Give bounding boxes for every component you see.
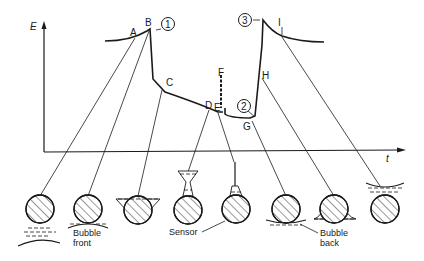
leader-lines bbox=[40, 31, 380, 196]
caption-bubble-back-1: Bubble bbox=[320, 228, 348, 238]
sensor-state-5 bbox=[222, 162, 250, 223]
stage-marker-1-text: 1 bbox=[165, 19, 171, 30]
bubble-back-pointer bbox=[300, 224, 318, 233]
stage-marker-2-text: 2 bbox=[241, 101, 247, 112]
caption-bubble-back-2: back bbox=[320, 238, 340, 248]
caption-sensor: Sensor bbox=[169, 227, 198, 237]
stage-marker-3-text: 3 bbox=[242, 15, 248, 26]
sensor-state-7 bbox=[314, 195, 356, 223]
axes: E t bbox=[30, 21, 406, 164]
bubble-sensor-signal-diagram: E t A B C D E F G H I 1 2 3 bbox=[0, 0, 424, 261]
point-label-g: G bbox=[243, 121, 251, 132]
point-label-e: E bbox=[214, 102, 221, 113]
point-label-f: F bbox=[218, 67, 224, 78]
caption-bubble-front-2: front bbox=[73, 238, 92, 248]
sensor-state-3 bbox=[116, 196, 160, 224]
marker-1-leader bbox=[156, 29, 161, 30]
x-axis bbox=[44, 150, 400, 152]
point-label-b: B bbox=[145, 17, 152, 28]
point-label-c: C bbox=[166, 77, 173, 88]
sensor-state-1 bbox=[18, 195, 60, 246]
sensor-state-4: Sensor bbox=[169, 171, 225, 237]
x-axis-label: t bbox=[386, 153, 390, 164]
sensor-pointer bbox=[202, 221, 225, 232]
sensor-state-2: Bubble front bbox=[68, 195, 108, 248]
caption-bubble-front-1: Bubble bbox=[73, 228, 101, 238]
point-label-i: I bbox=[278, 17, 281, 28]
y-axis-label: E bbox=[30, 21, 37, 32]
stage-markers: 1 2 3 bbox=[162, 14, 252, 113]
point-label-a: A bbox=[130, 27, 137, 38]
point-label-d: D bbox=[205, 100, 212, 111]
y-axis-arrow-icon bbox=[42, 21, 47, 29]
sensor-state-8 bbox=[366, 183, 404, 223]
x-axis-arrow-icon bbox=[397, 148, 406, 153]
